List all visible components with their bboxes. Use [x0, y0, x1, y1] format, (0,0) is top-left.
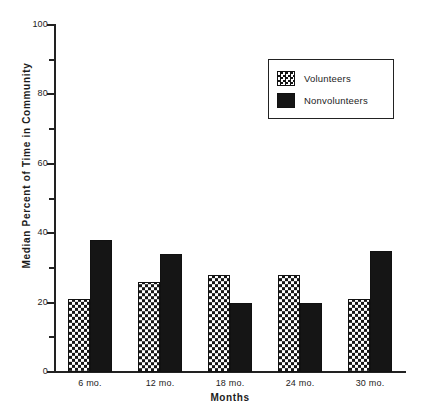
- x-tick-label: 24 mo.: [265, 378, 335, 388]
- checkerboard-swatch-icon: [277, 71, 295, 86]
- bar-volunteers-18mo: [208, 275, 230, 372]
- y-tick-label: 80: [8, 89, 48, 98]
- bar-group: [55, 25, 125, 372]
- y-tick-label: 100: [8, 20, 48, 29]
- y-tick-label: 60: [8, 159, 48, 168]
- y-tick-major: [47, 371, 55, 373]
- legend-item-volunteers: Volunteers: [277, 67, 385, 89]
- x-tick-label: 18 mo.: [195, 378, 265, 388]
- y-tick-major: [47, 163, 55, 165]
- bar-chart: Median Percent of Time in Community 0204…: [0, 0, 443, 414]
- x-axis-title: Months: [55, 392, 405, 403]
- chart-legend: Volunteers Nonvolunteers: [268, 59, 394, 119]
- solid-black-swatch-icon: [277, 93, 295, 108]
- y-tick-major: [47, 302, 55, 304]
- y-tick-major: [47, 93, 55, 95]
- bar-group-bars: [125, 25, 195, 372]
- x-tick-label: 12 mo.: [125, 378, 195, 388]
- bar-group-bars: [195, 25, 265, 372]
- legend-item-nonvolunteers: Nonvolunteers: [277, 89, 385, 111]
- bar-nonvolunteers-12mo: [160, 254, 182, 372]
- y-tick-major: [47, 232, 55, 234]
- bar-group: [125, 25, 195, 372]
- bar-nonvolunteers-18mo: [230, 303, 252, 372]
- bar-volunteers-12mo: [138, 282, 160, 372]
- x-tick-label: 30 mo.: [335, 378, 405, 388]
- legend-label-nonvolunteers: Nonvolunteers: [304, 95, 368, 106]
- x-tick-label: 6 mo.: [55, 378, 125, 388]
- y-tick-major: [47, 24, 55, 26]
- legend-label-volunteers: Volunteers: [304, 73, 351, 84]
- y-tick-label: 20: [8, 298, 48, 307]
- bar-volunteers-6mo: [68, 299, 90, 372]
- y-tick-label: 0: [8, 367, 48, 376]
- bar-group: [195, 25, 265, 372]
- bar-group-bars: [55, 25, 125, 372]
- bar-volunteers-24mo: [278, 275, 300, 372]
- bar-nonvolunteers-30mo: [370, 251, 392, 372]
- bar-nonvolunteers-6mo: [90, 240, 112, 372]
- y-tick-label: 40: [8, 228, 48, 237]
- bar-nonvolunteers-24mo: [300, 303, 322, 372]
- bar-volunteers-30mo: [348, 299, 370, 372]
